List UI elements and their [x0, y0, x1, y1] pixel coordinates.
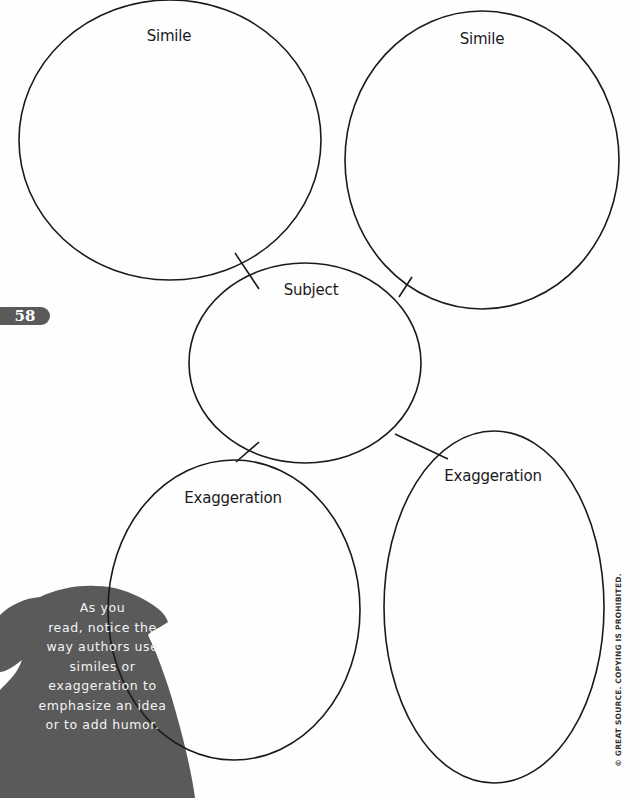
- worksheet-page: Simile Simile Subject Exaggeration Exagg…: [0, 0, 636, 798]
- copyright-notice: © GREAT SOURCE. COPYING IS PROHIBITED.: [614, 573, 623, 766]
- simile-ellipse-2[interactable]: [345, 11, 619, 309]
- connector-simile1-subject: [235, 253, 259, 289]
- exaggeration-label-2: Exaggeration: [444, 467, 542, 485]
- page-number-tab: 58: [0, 307, 50, 325]
- note-line: similes or: [30, 657, 175, 677]
- note-line: or to add humor.: [30, 715, 175, 735]
- note-line: emphasize an idea: [30, 696, 175, 716]
- note-line: read, notice the: [30, 618, 175, 638]
- note-line: exaggeration to: [30, 676, 175, 696]
- note-line: As you: [30, 598, 175, 618]
- connector-subject-exag2: [395, 434, 448, 459]
- simile-label-2: Simile: [460, 30, 505, 48]
- note-line: way authors use: [30, 637, 175, 657]
- simile-label-1: Simile: [147, 27, 192, 45]
- subject-label: Subject: [284, 281, 339, 299]
- reading-tip-note: As you read, notice the way authors use …: [30, 598, 175, 735]
- exaggeration-label-1: Exaggeration: [184, 489, 282, 507]
